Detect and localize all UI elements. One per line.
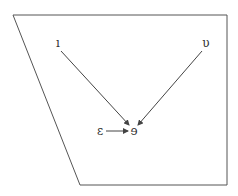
node-label-n4: ɘ — [130, 124, 137, 138]
node-label-n2: υ — [202, 36, 209, 50]
edge-n1-to-n4 — [61, 51, 129, 125]
frame-polygon — [13, 15, 227, 185]
node-label-n3: ɛ — [97, 124, 103, 138]
edge-n2-to-n4 — [138, 51, 202, 125]
diagram-canvas: ı υ ɛ ɘ — [0, 0, 238, 196]
node-label-n1: ı — [56, 36, 60, 50]
